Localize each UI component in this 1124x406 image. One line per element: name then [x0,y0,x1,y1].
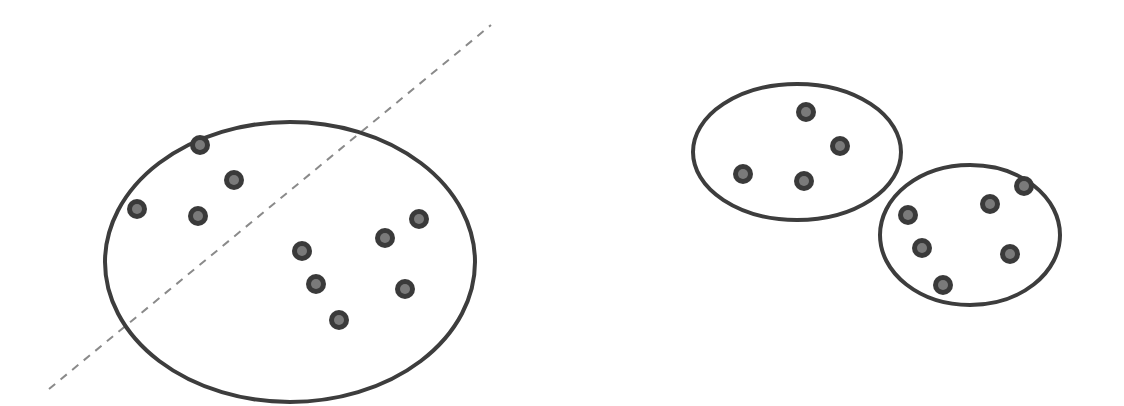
data-point [188,206,208,226]
data-point [375,228,395,248]
data-point [1014,176,1034,196]
cluster-boundary [693,84,901,220]
clustering-diagram [0,0,1124,406]
data-point [794,171,814,191]
small-cluster-bottom [880,165,1060,305]
data-point [796,102,816,122]
data-point [395,279,415,299]
data-point [1000,244,1020,264]
data-point [292,241,312,261]
cluster-boundary [105,122,475,402]
data-point [127,199,147,219]
data-point [733,164,753,184]
data-point [224,170,244,190]
data-point [190,135,210,155]
data-point [306,274,326,294]
dashed-split-line [49,25,491,389]
data-point [409,209,429,229]
large-cluster [105,122,475,402]
data-point [980,194,1000,214]
clusters-group [105,84,1060,402]
data-point [898,205,918,225]
small-cluster-top [693,84,901,220]
data-point [830,136,850,156]
data-point [329,310,349,330]
data-point [933,275,953,295]
data-point [912,238,932,258]
